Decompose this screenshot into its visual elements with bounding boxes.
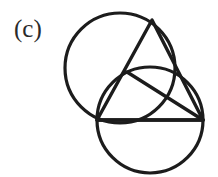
inscribed-triangle (97, 20, 203, 120)
figure-panel: (c) (0, 0, 218, 177)
geometry-diagram (0, 0, 218, 177)
